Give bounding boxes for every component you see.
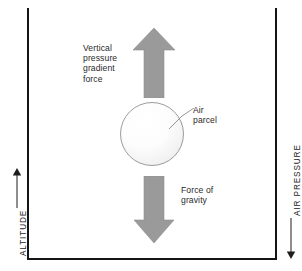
label-force-of-gravity: Force of gravity xyxy=(181,185,213,205)
label-vertical-pressure-gradient-force: Vertical pressure gradient force xyxy=(83,43,117,84)
axis-altitude: ALTITUDE xyxy=(6,168,28,260)
axis-line-right xyxy=(275,8,277,260)
arrow-up-icon xyxy=(133,28,175,98)
axis-line-bottom xyxy=(27,258,277,260)
air-parcel-leader-line xyxy=(168,108,196,132)
axis-label-air-pressure: AIR PRESSURE xyxy=(293,144,302,216)
arrow-down-icon xyxy=(134,176,174,243)
label-air-parcel: Air parcel xyxy=(193,105,217,125)
diagram-canvas: Vertical pressure gradient force Air par… xyxy=(0,0,302,271)
axis-air-pressure: AIR PRESSURE xyxy=(280,158,302,260)
axis-label-altitude: ALTITUDE xyxy=(19,210,28,256)
